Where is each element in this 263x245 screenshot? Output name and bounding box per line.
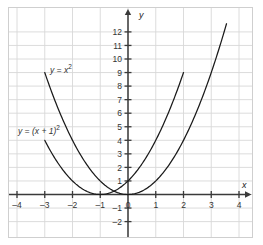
x-axis-arrowhead (245, 191, 252, 197)
y-tick-label: 9 (117, 68, 122, 78)
curve-y-equals-x-plus-1-squared (45, 73, 184, 195)
curve-label-y-equals-x-plus-1-squared: y = (x + 1)2 (18, 124, 60, 136)
y-tick-label: 4 (117, 136, 122, 146)
x-tick-label: –4 (12, 200, 22, 210)
y-tick-label: 1 (117, 176, 122, 186)
x-tick-label: 4 (237, 200, 242, 210)
y-tick-label: 5 (117, 122, 122, 132)
x-tick-label: –1 (96, 200, 106, 210)
y-axis-arrowhead (125, 9, 131, 15)
curve-y-equals-x-squared (45, 24, 227, 195)
graph-figure: –4–3–2–101234–2–1123456789101112 y x y =… (0, 0, 263, 245)
x-tick-label: 1 (153, 200, 158, 210)
y-tick-label: 3 (117, 149, 122, 159)
y-tick-label: 8 (117, 81, 122, 91)
y-tick-label: –1 (113, 203, 123, 213)
x-tick-label: 0 (126, 200, 131, 210)
y-tick-label: 2 (117, 163, 122, 173)
y-tick-label: 10 (113, 54, 123, 64)
y-tick-label: 7 (117, 95, 122, 105)
curve-label-y-equals-x-squared: y = x2 (50, 63, 72, 75)
y-tick-label: 6 (117, 108, 122, 118)
plot-canvas: –4–3–2–101234–2–1123456789101112 (0, 0, 263, 245)
y-tick-label: –2 (113, 217, 123, 227)
x-tick-label: –3 (40, 200, 50, 210)
y-axis-label: y (139, 10, 144, 20)
x-tick-label: 2 (181, 200, 186, 210)
curves (45, 24, 227, 195)
y-tick-label: 12 (113, 27, 123, 37)
y-tick-label: 11 (113, 41, 122, 51)
x-axis-label: x (242, 180, 247, 190)
x-tick-label: –2 (68, 200, 78, 210)
x-tick-label: 3 (209, 200, 214, 210)
